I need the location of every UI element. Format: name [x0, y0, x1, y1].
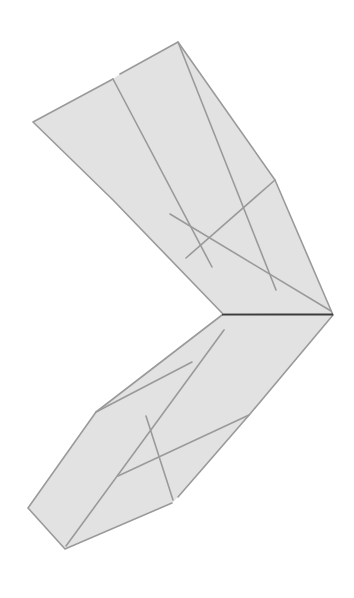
net-diagram-svg	[0, 0, 354, 598]
figure-root	[0, 0, 354, 598]
